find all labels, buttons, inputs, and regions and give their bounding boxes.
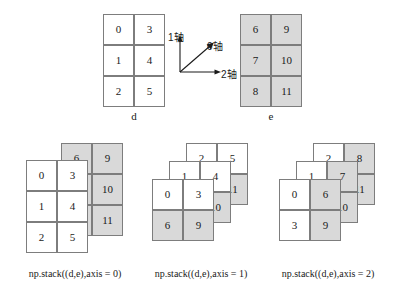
panel0-back-cell: 11 bbox=[92, 205, 123, 236]
panel2-layer0-cell: 9 bbox=[310, 210, 341, 241]
panel-axis-0-caption: np.stack((d,e),axis = 0) bbox=[10, 268, 140, 279]
axis-0-label: 0轴 bbox=[207, 38, 223, 53]
panel0-front-cell: 4 bbox=[57, 191, 88, 222]
panel-axis-1-caption: np.stack((d,e),axis = 1) bbox=[136, 268, 266, 279]
panel1-layer0-cell: 3 bbox=[183, 179, 214, 210]
array-d-cell: 0 bbox=[103, 14, 134, 45]
panel0-back-cell: 9 bbox=[92, 143, 123, 174]
axis-1-label: 1轴 bbox=[168, 29, 184, 44]
array-d-cell: 2 bbox=[103, 76, 134, 107]
panel-axis-2-caption: np.stack((d,e),axis = 2) bbox=[263, 268, 393, 279]
array-d-cell: 4 bbox=[134, 45, 165, 76]
panel0-front-cell: 5 bbox=[57, 222, 88, 253]
panel1-layer0-cell: 0 bbox=[152, 179, 183, 210]
panel1-layer0-cell: 9 bbox=[183, 210, 214, 241]
axis-2-label: 2轴 bbox=[221, 66, 237, 81]
panel0-front-cell: 3 bbox=[57, 160, 88, 191]
array-e-label: e bbox=[240, 110, 302, 122]
array-d-label: d bbox=[103, 110, 165, 122]
array-e-cell: 6 bbox=[240, 14, 271, 45]
panel2-layer0-cell: 0 bbox=[279, 179, 310, 210]
array-d-cell: 5 bbox=[134, 76, 165, 107]
array-d-cell: 3 bbox=[134, 14, 165, 45]
array-d-cell: 1 bbox=[103, 45, 134, 76]
panel0-front-cell: 1 bbox=[26, 191, 57, 222]
array-e-cell: 10 bbox=[271, 45, 302, 76]
panel0-front-cell: 0 bbox=[26, 160, 57, 191]
array-e-cell: 8 bbox=[240, 76, 271, 107]
panel1-layer0-cell: 6 bbox=[152, 210, 183, 241]
panel2-layer0-cell: 6 bbox=[310, 179, 341, 210]
array-e-cell: 11 bbox=[271, 76, 302, 107]
panel0-back-cell: 10 bbox=[92, 174, 123, 205]
array-e-cell: 9 bbox=[271, 14, 302, 45]
figure-canvas: 0 3 1 4 2 5 d 1轴 0轴 2轴 6 9 7 10 8 11 e bbox=[0, 0, 396, 291]
panel0-front-cell: 2 bbox=[26, 222, 57, 253]
panel2-layer0-cell: 3 bbox=[279, 210, 310, 241]
array-e-cell: 7 bbox=[240, 45, 271, 76]
